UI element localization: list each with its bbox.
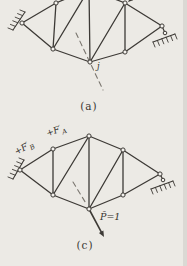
truss-diagram-a xyxy=(8,0,177,90)
label-unit-load: P̄=1 xyxy=(100,212,120,222)
caption-a: (a) xyxy=(69,101,109,112)
right-edge-shadow xyxy=(183,0,187,266)
label-joint-j: j xyxy=(97,62,100,71)
figure-canvas: +F′A +F′B j P̄=1 (a) (c) xyxy=(0,0,187,266)
truss-svg xyxy=(0,0,187,266)
caption-c: (c) xyxy=(65,240,105,251)
